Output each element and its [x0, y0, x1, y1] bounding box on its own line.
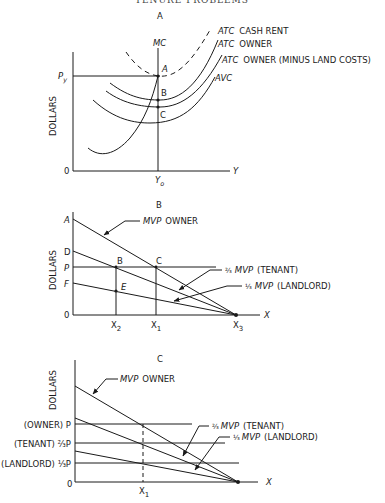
- panel-a-title: A: [157, 11, 163, 21]
- panel-b-origin: 0: [64, 310, 69, 320]
- mvp-tenant-label: ⅔MVP(TENANT): [212, 421, 284, 431]
- panel-a-origin: 0: [64, 166, 69, 176]
- mvp-landlord-callout: [195, 437, 230, 470]
- tick-d: D: [64, 247, 71, 257]
- atc-owner-minus-curve: [106, 55, 222, 107]
- point-c-label: C: [160, 110, 166, 120]
- panel-b-x-label: X: [263, 310, 270, 320]
- mvp-landlord-line: [73, 283, 236, 315]
- atc-cash-rent-label: ATCCASH RENT: [217, 26, 289, 36]
- mc-curve: [88, 76, 158, 154]
- mvp-owner-label: MVPOWNER: [143, 216, 198, 226]
- panel-a-x-label: Y: [233, 166, 239, 176]
- atc-owner-minus-label: ATCOWNER (MINUS LAND COSTS): [221, 55, 371, 65]
- point-e-marker: [114, 289, 117, 292]
- tick-x2: X2: [111, 320, 121, 333]
- mvp-tenant-line: [73, 251, 236, 315]
- tenure-diagram: TENURE PROBLEMS A Y 0 DOLLARS Py Yo MC A…: [0, 0, 385, 503]
- mvp-owner-label: MVPOWNER: [120, 374, 175, 384]
- panel-b-title: B: [156, 200, 162, 210]
- tick-x3: X3: [233, 320, 243, 333]
- tick-f: F: [64, 279, 69, 289]
- point-c-label: C: [156, 256, 162, 266]
- tick-x1: X1: [151, 320, 161, 333]
- mvp-owner-line: [75, 386, 238, 482]
- mvp-landlord-label: ⅓MVP(LANDLORD): [245, 281, 331, 291]
- convergence-marker: [236, 480, 240, 484]
- mc-label: MC: [153, 38, 166, 48]
- tick-x1: X1: [139, 486, 149, 499]
- panel-a-quantity-label: Yo: [155, 175, 164, 188]
- point-b-marker: [115, 266, 118, 269]
- atc-owner-label: ATCOWNER: [217, 39, 272, 49]
- atc-cash-rent-curve: [126, 30, 210, 76]
- tick-a: A: [63, 215, 70, 225]
- avc-label: AVC: [214, 73, 232, 83]
- point-c-marker: [155, 266, 158, 269]
- mvp-owner-callout: [104, 221, 140, 235]
- point-e-label: E: [121, 282, 127, 292]
- mvp-owner-callout: [93, 379, 118, 394]
- x3-marker: [234, 313, 238, 317]
- panel-b-y-label: DOLLARS: [48, 250, 58, 290]
- panel-c-x-label: X: [265, 477, 272, 487]
- point-b-label: B: [161, 88, 167, 98]
- panel-a-price-label: Py: [58, 71, 67, 84]
- panel-c-origin: 0: [67, 479, 72, 489]
- mvp-tenant-callout: [179, 270, 222, 290]
- point-a-marker: [156, 74, 159, 77]
- tick-p: P: [64, 263, 70, 273]
- panel-c-title: C: [157, 354, 163, 364]
- tick-owner-p: (OWNER) P: [24, 420, 71, 430]
- tick-landlord-p: (LANDLORD) ⅓P: [1, 459, 71, 469]
- panel-b: B X 0 DOLLARS A D P F B C E X2 X1 X3 MVP: [48, 200, 331, 333]
- tick-tenant-p: (TENANT) ⅔P: [14, 439, 71, 449]
- panel-a-y-label: DOLLARS: [48, 96, 58, 136]
- point-a-label: A: [161, 64, 168, 74]
- panel-c-y-label: DOLLARS: [48, 370, 58, 410]
- panel-a: A Y 0 DOLLARS Py Yo MC ATCCASH RENT ATCO…: [48, 11, 371, 188]
- point-c-marker: [156, 105, 159, 108]
- panel-c: C X 0 DOLLARS (OWNER) P (TENANT) ⅔P (LAN…: [1, 354, 318, 499]
- mvp-landlord-label: ⅓MVP(LANDLORD): [233, 432, 318, 442]
- running-header: TENURE PROBLEMS: [135, 0, 249, 5]
- mvp-landlord-line: [75, 451, 238, 482]
- point-b-marker: [156, 98, 159, 101]
- mvp-tenant-label: ⅔MVP(TENANT): [225, 265, 298, 275]
- point-b-label: B: [117, 256, 123, 266]
